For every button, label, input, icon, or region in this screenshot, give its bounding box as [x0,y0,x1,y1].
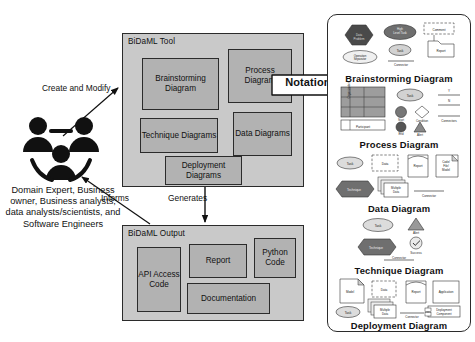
process-notation-art: Organization Participant Task Start Cond… [328,85,470,137]
svg-text:Connector: Connector [394,63,408,67]
svg-text:Technique: Technique [369,246,383,250]
tool-item-technique-diagrams[interactable]: Technique Diagrams [140,118,218,153]
svg-text:Separator: Separator [354,57,367,61]
svg-text:Problem: Problem [354,37,365,41]
svg-text:Data: Data [381,288,388,292]
output-item-python-code[interactable]: Python Code [254,238,296,278]
svg-text:Condition: Condition [416,119,429,123]
output-item-documentation[interactable]: Documentation [187,283,270,314]
connector-label-generates: Generates [168,193,207,203]
notation-section-title-technique: Technique Diagram [328,265,470,276]
svg-text:Alert: Alert [417,133,423,137]
bidaml-output-container: BiDaML Output API Access Code Report Pyt… [122,225,304,321]
bidaml-tool-container: BiDaML Tool Brainstorming Diagram Proces… [122,33,304,187]
notations-panel: Data Problem High Level Task Task Operat… [327,14,471,332]
deployment-notation-art: Model Data Report Application Task Multi… [328,277,470,323]
svg-text:Organization: Organization [347,81,351,98]
svg-text:Model: Model [346,290,355,294]
svg-text:Model: Model [442,168,450,172]
tool-item-brainstorming-diagram[interactable]: Brainstorming Diagram [142,58,219,110]
data-notation-art: Task Data Report Code/ File/ Model Techn… [328,151,470,201]
svg-text:Task: Task [407,94,414,98]
notation-section-title-deployment: Deployment Diagram [328,320,470,331]
svg-text:N: N [448,99,450,103]
connector-label-informs: Informs [101,193,129,203]
tool-item-data-diagrams[interactable]: Data Diagrams [233,112,292,156]
svg-text:Task: Task [345,311,352,315]
bidaml-output-title: BiDaML Output [128,229,185,238]
svg-text:Data: Data [382,162,389,166]
svg-text:Task: Task [397,49,404,53]
svg-text:Connector: Connector [405,315,418,319]
svg-text:Success: Success [410,251,422,255]
output-item-report[interactable]: Report [189,244,247,278]
svg-text:Alert: Alert [413,231,419,235]
bidaml-tool-title: BiDaML Tool [128,37,175,46]
svg-text:Connectors: Connectors [441,119,457,123]
svg-text:Connector: Connector [392,256,406,260]
tool-item-deployment-diagrams[interactable]: Deployment Diagrams [165,156,242,185]
svg-text:Task: Task [375,224,382,228]
svg-text:Application: Application [439,290,454,294]
output-item-api-access-code[interactable]: API Access Code [137,247,181,312]
technique-notation-art: Task Alert Technique Success Connector [328,215,470,263]
svg-text:Report: Report [436,49,445,53]
svg-text:Comment: Comment [432,28,445,32]
svg-text:Data: Data [382,312,388,316]
svg-text:Connector: Connector [422,194,436,198]
svg-text:Participant: Participant [356,125,370,129]
svg-text:Task: Task [347,162,354,166]
svg-text:Technique: Technique [347,188,361,192]
svg-text:Report: Report [411,290,420,294]
notation-section-title-data: Data Diagram [328,203,470,214]
svg-text:Component: Component [437,312,452,316]
svg-text:Level Task: Level Task [393,31,407,35]
svg-text:End: End [398,132,404,136]
brainstorming-notation-art: Data Problem High Level Task Task Operat… [328,19,470,71]
svg-text:Start: Start [398,118,404,122]
svg-text:Y: Y [448,89,450,93]
connector-label-create-and-modify: Create and Modify [42,83,110,93]
svg-text:Report: Report [413,164,422,168]
svg-text:Data: Data [393,190,399,194]
notation-section-title-process: Process Diagram [328,139,470,150]
